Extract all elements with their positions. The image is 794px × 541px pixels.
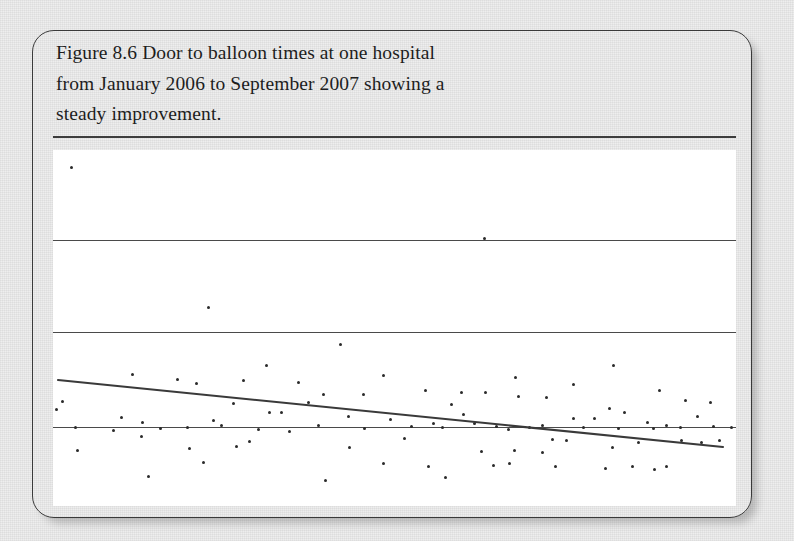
caption-divider	[53, 136, 736, 138]
scatter-plot-panel	[53, 150, 736, 506]
trend-line	[53, 150, 736, 506]
figure-caption: Figure 8.6 Door to balloon times at one …	[56, 38, 696, 130]
caption-line-1: Figure 8.6 Door to balloon times at one …	[56, 38, 696, 69]
trend-line-segment	[58, 380, 723, 447]
caption-line-2: from January 2006 to September 2007 show…	[56, 69, 696, 100]
caption-line-3: steady improvement.	[56, 99, 696, 130]
